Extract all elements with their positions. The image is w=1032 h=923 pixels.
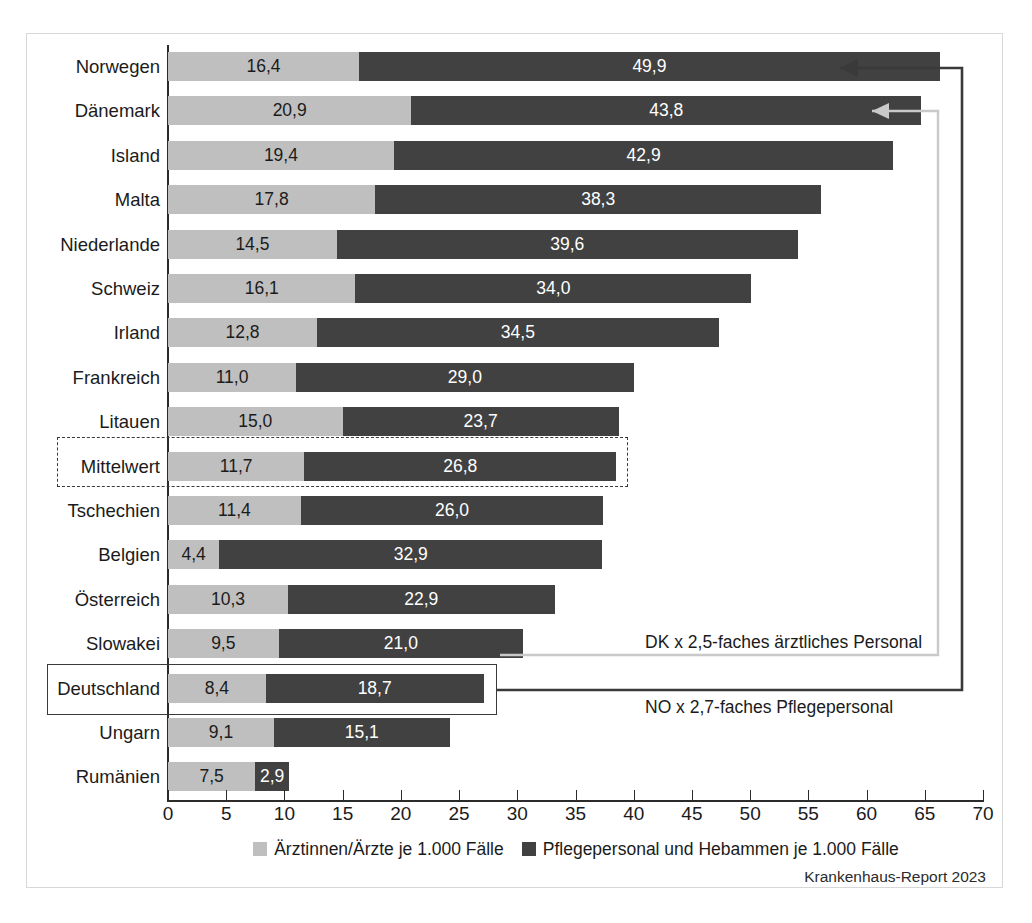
legend-swatch-light (253, 842, 267, 856)
legend-label: Ärztinnen/Ärzte je 1.000 Fälle (274, 839, 504, 860)
callout-arrows (0, 0, 1032, 923)
plot-area: Norwegen16,449,9Dänemark20,943,8Island19… (0, 0, 1032, 923)
arrow-path-no (497, 68, 962, 690)
annotation-dk: DK x 2,5-faches ärztliches Personal (645, 632, 922, 653)
annotation-no: NO x 2,7-faches Pflegepersonal (645, 697, 893, 718)
arrow-head-dk (872, 103, 889, 119)
legend-item: Ärztinnen/Ärzte je 1.000 Fälle (253, 839, 504, 860)
legend-swatch-dark (522, 842, 536, 856)
source-note: Krankenhaus-Report 2023 (804, 868, 986, 886)
chart-figure: Norwegen16,449,9Dänemark20,943,8Island19… (0, 0, 1032, 923)
legend-label: Pflegepersonal und Hebammen je 1.000 Fäl… (543, 839, 899, 860)
chart-legend: Ärztinnen/Ärzte je 1.000 FällePflegepers… (168, 836, 984, 862)
arrow-head-no (840, 59, 858, 77)
legend-item: Pflegepersonal und Hebammen je 1.000 Fäl… (522, 839, 899, 860)
arrow-path-dk (500, 111, 938, 655)
